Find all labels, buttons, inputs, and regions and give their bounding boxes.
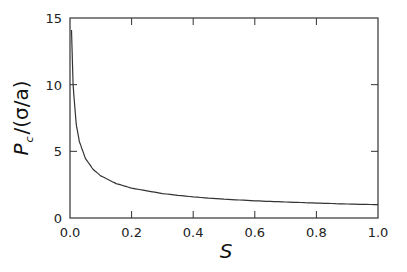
- x-tick-label: 0.6: [244, 225, 265, 240]
- x-tick-label: 0.0: [60, 225, 81, 240]
- plot-frame: [70, 18, 378, 218]
- y-tick-label: 10: [45, 78, 62, 93]
- y-tick-label: 0: [54, 211, 62, 226]
- line-chart: 0.00.20.40.60.81.0 051015 S Pc/(σ/a): [0, 0, 407, 272]
- svg-text:Pc/(σ/a): Pc/(σ/a): [9, 80, 36, 155]
- y-tick-label: 5: [54, 144, 62, 159]
- y-axis-ticks: 051015: [45, 11, 378, 226]
- y-tick-label: 15: [45, 11, 62, 26]
- x-tick-label: 1.0: [368, 225, 389, 240]
- x-tick-label: 0.2: [121, 225, 142, 240]
- x-axis-label: S: [220, 239, 233, 263]
- data-line: [72, 30, 379, 205]
- x-tick-label: 0.4: [183, 225, 204, 240]
- y-axis-label: Pc/(σ/a): [9, 80, 36, 155]
- x-axis-ticks: 0.00.20.40.60.81.0: [60, 18, 389, 240]
- x-tick-label: 0.8: [306, 225, 327, 240]
